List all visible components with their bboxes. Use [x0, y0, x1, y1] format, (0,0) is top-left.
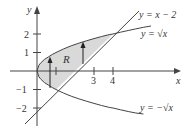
curve-label-sqrt: y = √x — [140, 28, 168, 39]
diagram: R x y 3 4 2 1 −1 −2 y = x − 2 y = √x y =… — [0, 0, 192, 130]
y-tick-label-neg1: −1 — [16, 84, 27, 95]
y-tick-label-1: 1 — [24, 47, 29, 58]
x-tick-label-3: 3 — [91, 75, 96, 86]
curve-label-neg-sqrt: y = −√x — [139, 102, 173, 113]
y-tick-label-2: 2 — [24, 29, 29, 40]
x-tick-label-4: 4 — [110, 75, 115, 86]
y-axis-arrow-icon — [34, 6, 40, 14]
y-tick-label-neg2: −2 — [16, 103, 27, 114]
y-axis-label: y — [26, 4, 32, 15]
region-label: R — [62, 53, 70, 65]
x-axis-arrow-icon — [174, 68, 181, 74]
curve-label-line: y = x − 2 — [138, 9, 176, 20]
x-axis-label: x — [175, 75, 181, 86]
